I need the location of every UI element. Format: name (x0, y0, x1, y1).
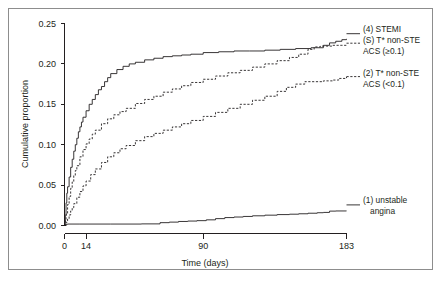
legend-label-nonste-high-line2: ACS (≥0.1) (363, 46, 405, 56)
y-tick-label-3: 0.15 (38, 99, 56, 109)
x-tick-group (65, 234, 347, 239)
y-tick-label-4: 0.20 (38, 59, 56, 69)
legend-label-stemi: (4) STEMI (363, 24, 401, 34)
legend-label-unstable-line1: (1) unstable (363, 195, 408, 205)
y-axis-title: Cumulative proportion (20, 80, 30, 168)
x-tick-label-2: 90 (198, 241, 208, 251)
legend-label-nonste-high-line1: (S) T* non-STE (363, 35, 421, 45)
curve-group (65, 39, 347, 226)
legend-label-unstable-line2: angina (370, 206, 395, 216)
y-tick-label-0: 0.00 (38, 221, 56, 231)
curve-series-1 (65, 45, 347, 225)
curve-series-3 (65, 211, 347, 226)
x-tick-label-0: 0 (62, 241, 67, 251)
x-axis-title: Time (days) (181, 258, 228, 268)
figure-container: 0.00 0.05 0.10 0.15 0.20 0.25 0 14 90 18… (0, 0, 443, 286)
y-tick-label-2: 0.10 (38, 140, 56, 150)
x-tick-label-3: 183 (339, 241, 354, 251)
curve-series-0 (65, 39, 347, 226)
curve-series-2 (65, 77, 347, 226)
y-tick-label-5: 0.25 (38, 19, 56, 29)
legend-label-nonste-low-line1: (2) T* non-STE (363, 68, 420, 78)
y-tick-label-1: 0.05 (38, 180, 56, 190)
legend-leader-group (347, 34, 361, 205)
y-tick-group (61, 24, 65, 226)
legend-label-nonste-low-line2: ACS (<0.1) (363, 79, 405, 89)
x-tick-label-1: 14 (81, 241, 91, 251)
kaplan-meier-chart: 0.00 0.05 0.10 0.15 0.20 0.25 0 14 90 18… (0, 0, 443, 286)
